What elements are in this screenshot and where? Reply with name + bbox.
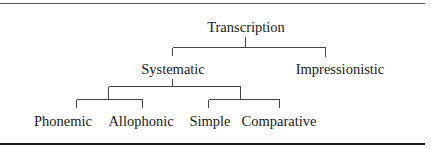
node-impressionistic: Impressionistic — [296, 61, 385, 77]
node-simple: Simple — [189, 113, 230, 129]
node-phonemic: Phonemic — [34, 113, 92, 129]
node-transcription: Transcription — [207, 19, 285, 35]
transcription-tree-diagram: Transcription Systematic Impressionistic… — [0, 0, 431, 149]
node-systematic: Systematic — [141, 61, 205, 77]
node-comparative: Comparative — [242, 113, 317, 129]
node-allophonic: Allophonic — [108, 113, 173, 129]
bottom-rule — [0, 143, 425, 145]
